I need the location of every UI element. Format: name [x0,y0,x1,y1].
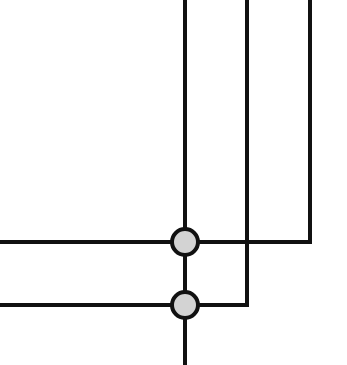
junction-lower-node [172,292,198,318]
wire-diagram [0,0,347,365]
wires-group [0,0,310,365]
diagram-canvas [0,0,347,365]
right-vertical-wire [0,0,310,242]
middle-vertical-wire [0,0,247,305]
junction-upper-node [172,229,198,255]
